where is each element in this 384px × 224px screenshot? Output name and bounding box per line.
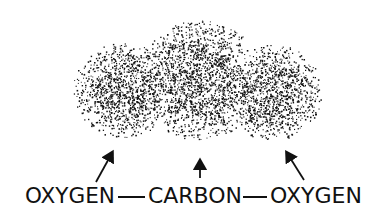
atom-label-carbon: CARBON: [148, 182, 242, 209]
arrow-0: [96, 153, 112, 182]
atom-label-oxygen-right: OXYGEN: [270, 182, 362, 209]
bond-left: [118, 196, 145, 198]
co2-electron-cloud-diagram: OXYGEN CARBON OXYGEN: [0, 0, 384, 224]
arrow-2: [287, 153, 304, 180]
bond-right: [243, 196, 267, 198]
atom-label-oxygen-left: OXYGEN: [25, 182, 115, 209]
